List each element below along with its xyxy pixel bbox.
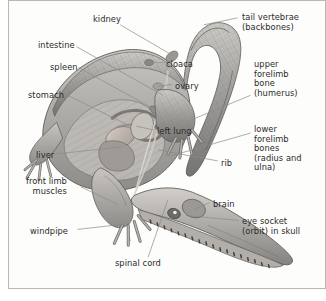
label-left-lung: left lung — [157, 127, 192, 137]
label-tail-vertebrae: tail vertebrae (backbones) — [242, 13, 299, 32]
label-kidney: kidney — [93, 15, 121, 25]
leader-line-windpipe — [78, 223, 131, 229]
label-upper-forelimb: upper forelimb bone (humerus) — [254, 60, 298, 98]
leader-line-rib — [158, 150, 218, 161]
label-windpipe: windpipe — [30, 227, 68, 237]
leader-line-front-limb-muscles — [81, 187, 119, 205]
leader-line-kidney — [120, 25, 173, 56]
label-spleen: spleen — [50, 63, 78, 73]
leader-line-stomach — [68, 95, 127, 124]
label-cloaca: cloaca — [166, 60, 193, 70]
leader-line-ovary — [158, 84, 172, 86]
label-liver: liver — [36, 151, 54, 161]
label-ovary: ovary — [175, 82, 199, 92]
leader-line-upper-forelimb — [186, 95, 251, 122]
leader-line-eye-socket — [186, 216, 239, 221]
leader-line-brain — [194, 203, 210, 210]
label-front-limb-muscles: front limb muscles — [26, 177, 67, 196]
label-stomach: stomach — [28, 91, 64, 101]
leader-line-tail-vertebrae — [204, 18, 238, 25]
label-intestine: intestine — [38, 41, 75, 51]
leader-line-intestine — [77, 47, 163, 96]
leader-line-spleen — [79, 68, 157, 111]
anatomy-figure-panel: kidneytail vertebrae (backbones)intestin… — [8, 0, 326, 289]
label-rib: rib — [221, 159, 232, 169]
label-spinal-cord: spinal cord — [115, 259, 161, 269]
label-brain: brain — [213, 200, 235, 210]
label-eye-socket: eye socket (orbit) in skull — [242, 217, 300, 236]
leader-line-left-lung — [136, 126, 154, 130]
leader-line-spinal-cord — [148, 200, 168, 258]
label-lower-forelimb: lower forelimb bones (radius and ulna) — [254, 125, 302, 173]
leader-line-liver — [57, 147, 121, 154]
